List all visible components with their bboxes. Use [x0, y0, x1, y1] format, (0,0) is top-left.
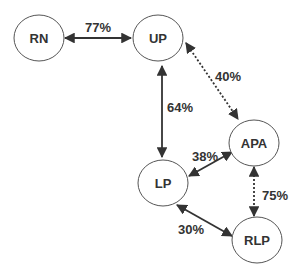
edge-label-lp-apa: 38%: [192, 149, 218, 164]
node-label-apa: APA: [241, 136, 268, 151]
node-label-lp: LP: [155, 176, 172, 191]
edge-label-up-apa: 40%: [215, 69, 241, 84]
node-label-up: UP: [149, 31, 167, 46]
edge-label-lp-rlp: 30%: [178, 222, 204, 237]
node-label-rlp: RLP: [244, 233, 270, 248]
network-diagram: 77% 40% 64% 38% 75% 30% RN UP APA LP RLP: [0, 0, 303, 276]
node-lp: LP: [138, 160, 188, 206]
node-rn: RN: [14, 15, 64, 61]
node-apa: APA: [229, 120, 279, 166]
node-up: UP: [133, 15, 183, 61]
edge-label-up-lp: 64%: [167, 100, 193, 115]
node-rlp: RLP: [232, 217, 282, 263]
node-label-rn: RN: [30, 31, 49, 46]
edge-label-rn-up: 77%: [85, 20, 111, 35]
edge-label-apa-rlp: 75%: [262, 188, 288, 203]
